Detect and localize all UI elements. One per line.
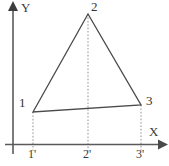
figure-canvas: [0, 0, 169, 166]
y-axis-arrowhead: [8, 1, 18, 11]
vertex-label-2: 2: [91, 0, 98, 13]
triangle-shape: [33, 14, 141, 112]
x-tick-label-2-prime: 2': [83, 148, 91, 160]
vertex-label-3: 3: [146, 94, 153, 107]
x-axis-label: X: [149, 125, 158, 138]
triangle-projection-figure: Y X 1 2 3 1' 2' 3': [0, 0, 169, 166]
x-tick-label-3-prime: 3': [136, 148, 144, 160]
x-tick-label-1-prime: 1': [28, 148, 36, 160]
y-axis-label: Y: [21, 1, 30, 14]
x-axis-arrowhead: [158, 140, 168, 150]
vertex-label-1: 1: [19, 96, 26, 109]
axes: [5, 1, 168, 154]
triangle-outline: [33, 14, 141, 112]
